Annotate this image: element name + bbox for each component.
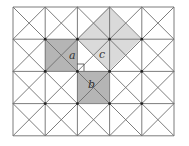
label-c: c <box>99 48 105 61</box>
pythagorean-grid-diagram: a c b <box>0 0 189 146</box>
right-angle-marker <box>77 64 84 71</box>
label-b: b <box>88 78 95 91</box>
label-a: a <box>69 49 76 62</box>
